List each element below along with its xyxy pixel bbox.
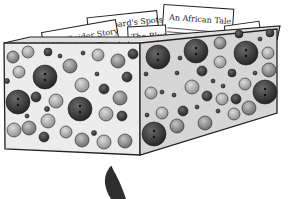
feather-shape: [105, 166, 126, 199]
story-box-illustration: opard's Spots An African Tale The Blue T…: [0, 0, 288, 199]
box-right-face: [140, 29, 277, 155]
box-front-face: [4, 43, 140, 155]
